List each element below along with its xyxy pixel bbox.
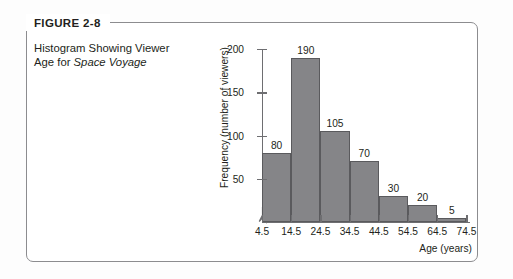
- x-axis-tick-label: 44.5: [369, 226, 389, 237]
- caption-program-title: Space Voyage: [74, 56, 147, 68]
- histogram-bar: [379, 196, 408, 222]
- x-axis-tick-label: 74.5: [456, 226, 476, 237]
- histogram-bar: [350, 161, 379, 222]
- x-axis-tick-label: 64.5: [427, 226, 447, 237]
- x-axis-tick-mark: [437, 215, 438, 223]
- x-axis-tick-mark: [291, 215, 292, 223]
- bar-value-label: 5: [449, 205, 455, 216]
- figure-page: FIGURE 2-8 Histogram Showing Viewer Age …: [0, 0, 513, 279]
- x-axis-tick-label: 24.5: [310, 226, 330, 237]
- y-axis-tick-label: 100: [218, 130, 244, 141]
- plot-area: 801901057030205 4.514.524.534.544.554.56…: [250, 36, 472, 251]
- x-axis-tick-mark: [320, 215, 321, 223]
- y-axis-tick-mark: [257, 49, 267, 50]
- y-axis-tick-labels: 50100150200: [218, 36, 244, 251]
- y-axis-tick-label: 50: [218, 173, 244, 184]
- x-axis-tick-mark: [408, 215, 409, 223]
- bar-value-label: 105: [327, 118, 344, 129]
- bar-value-label: 20: [417, 192, 428, 203]
- x-axis-tick-label: 4.5: [255, 226, 269, 237]
- histogram-bar: [408, 205, 437, 222]
- x-axis-tick-label: 54.5: [398, 226, 418, 237]
- figure-caption: Histogram Showing Viewer Age for Space V…: [34, 41, 212, 70]
- histogram-chart: Frequency (number of viewers) 5010015020…: [200, 36, 490, 251]
- y-axis-tick-mark: [257, 179, 267, 180]
- x-axis-title: Age (years): [250, 243, 472, 254]
- y-axis-tick-label: 150: [218, 87, 244, 98]
- x-axis-tick-mark: [466, 215, 467, 223]
- bar-value-label: 80: [271, 140, 282, 151]
- x-axis-tick-mark: [262, 215, 263, 223]
- bar-value-label: 190: [297, 45, 314, 56]
- y-axis-tick-mark: [257, 136, 267, 137]
- x-axis-tick-labels: 4.514.524.534.544.554.564.574.5: [250, 226, 472, 240]
- x-axis-line: [262, 222, 470, 223]
- histogram-bar: [291, 58, 320, 222]
- bar-value-label: 70: [359, 148, 370, 159]
- bar-value-label: 30: [388, 183, 399, 194]
- caption-line-2-prefix: Age for: [34, 56, 74, 68]
- x-axis-tick-mark: [350, 215, 351, 223]
- histogram-bar: [437, 218, 466, 222]
- caption-line-1: Histogram Showing Viewer: [34, 42, 169, 54]
- y-axis-tick-label: 200: [218, 44, 244, 55]
- x-axis-tick-label: 14.5: [281, 226, 301, 237]
- x-axis-tick-mark: [379, 215, 380, 223]
- y-axis-tick-mark: [257, 92, 267, 93]
- histogram-bar: [320, 131, 349, 222]
- x-axis-tick-label: 34.5: [340, 226, 360, 237]
- figure-number-label: FIGURE 2-8: [34, 17, 101, 29]
- figure-tag: FIGURE 2-8: [26, 14, 110, 31]
- histogram-bar: [262, 153, 291, 222]
